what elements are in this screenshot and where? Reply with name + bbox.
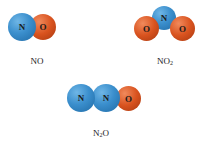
atom-label: O <box>143 24 150 34</box>
atom-label: N <box>161 13 168 23</box>
molecule-label-n2o: N2O <box>86 128 116 138</box>
nitrogen-atom: N <box>8 13 36 41</box>
atom-label: O <box>179 24 186 34</box>
oxygen-atom-right: O <box>170 16 195 41</box>
atom-label: N <box>19 22 26 32</box>
atom-label: O <box>125 94 132 104</box>
atom-label: N <box>103 93 110 103</box>
molecule-label-no: NO <box>22 56 52 66</box>
atom-label: O <box>39 22 46 32</box>
nitrogen-atom-end: N <box>67 84 95 112</box>
atom-label: N <box>78 93 85 103</box>
formula-post: O <box>103 128 110 138</box>
formula-base: NO <box>157 56 170 66</box>
nitrogen-atom-center: N <box>92 84 120 112</box>
formula-subscript: 2 <box>170 60 173 66</box>
oxygen-atom-left: O <box>134 16 159 41</box>
molecule-label-no2: NO2 <box>150 56 180 66</box>
